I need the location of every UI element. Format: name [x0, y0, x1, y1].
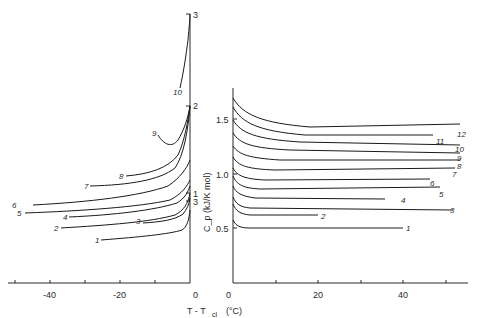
left-panel: -40 -20 0 3 2 1 3 1 2 3 4 5 6: [8, 10, 198, 300]
right-curve-label: 8: [457, 162, 462, 171]
right-curve-label: 6: [430, 179, 435, 188]
right-curves: [233, 98, 460, 228]
left-curve-label: 2: [53, 224, 59, 233]
cp-figure: -40 -20 0 3 2 1 3 1 2 3 4 5 6: [0, 0, 477, 318]
left-curve-10: [180, 14, 190, 88]
right-y-tick-label: 0.5: [216, 224, 229, 234]
left-curve-label: 3: [136, 217, 141, 226]
left-curve-6: [33, 160, 190, 205]
right-curve-1: [233, 220, 403, 228]
right-x-tick-label: 20: [313, 290, 323, 300]
x-axis-label-unit: (°C): [226, 306, 242, 316]
right-curve-11: [233, 107, 433, 135]
left-x-tick-label: 0: [193, 290, 198, 300]
right-curve-label: 9: [457, 154, 462, 163]
right-curve-12: [233, 98, 460, 127]
right-curve-label: 10: [455, 145, 464, 154]
left-x-tick-label: -20: [113, 290, 126, 300]
right-y-tick-label: 1.0: [216, 170, 229, 180]
right-x-tick-label: 0: [226, 290, 231, 300]
left-curve-3: [143, 198, 190, 223]
right-curve-2: [233, 204, 318, 215]
x-axis-label: T - T cl (°C): [187, 306, 242, 318]
right-y-axis-label: C_p (kJ/K mol): [202, 172, 212, 232]
left-x-tick-label: -40: [43, 290, 56, 300]
right-x-tick-label: 40: [398, 290, 408, 300]
right-curve-label: 2: [320, 212, 326, 221]
x-axis-label-main: T - T: [187, 306, 206, 316]
right-curve-label: 1: [406, 224, 410, 233]
left-curve-label: 10: [173, 88, 182, 97]
right-curve-10: [233, 120, 460, 145]
right-curve-label: 3: [450, 206, 455, 215]
left-curve-label: 5: [17, 209, 22, 218]
left-marker-label: 2: [193, 101, 198, 111]
left-curves: [25, 14, 190, 240]
right-curve-label: 4: [401, 196, 406, 205]
left-curve-8: [126, 106, 190, 176]
left-curve-label: 7: [84, 182, 89, 191]
left-marker-label: 3: [193, 10, 198, 20]
right-curve-label: 11: [436, 137, 444, 146]
left-curve-label: 1: [95, 236, 99, 245]
right-y-tick-label: 1.5: [216, 115, 229, 125]
right-curve-label: 7: [452, 170, 457, 179]
right-curve-label: 5: [439, 190, 444, 199]
left-marker-label: 3: [193, 197, 198, 207]
x-axis-label-sub: cl: [212, 311, 218, 318]
left-curve-label: 6: [12, 201, 17, 210]
right-curve-5: [233, 176, 440, 189]
right-curve-label: 12: [457, 130, 466, 139]
right-panel: 0.5 1.0 1.5 0 20 40 C_p (kJ/K mol) 1 2 3…: [202, 88, 468, 300]
left-curve-label: 8: [119, 172, 124, 181]
left-curve-label: 4: [63, 213, 68, 222]
left-curve-label: 9: [152, 129, 157, 138]
